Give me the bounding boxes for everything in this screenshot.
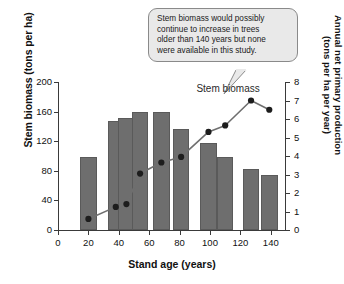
line-series bbox=[58, 82, 286, 231]
data-point-marker bbox=[123, 201, 129, 207]
axis-tick bbox=[180, 231, 181, 235]
axis-tick-label: 6 bbox=[294, 113, 334, 124]
axis-tick bbox=[58, 231, 59, 235]
axis-tick bbox=[286, 138, 290, 139]
axis-tick-label: 140 bbox=[251, 237, 291, 248]
axis-tick-label: 1 bbox=[294, 206, 334, 217]
axis-tick bbox=[271, 231, 272, 235]
data-point-marker bbox=[178, 154, 184, 160]
axis-tick-label: 200 bbox=[0, 76, 52, 87]
axis-tick bbox=[286, 175, 290, 176]
callout-box: Stem biomass would possibly continue to … bbox=[148, 8, 298, 62]
axis-tick-label: 7 bbox=[294, 95, 334, 106]
callout-text: Stem biomass would possibly continue to … bbox=[157, 14, 290, 56]
data-point-marker bbox=[205, 129, 211, 135]
axis-tick bbox=[240, 231, 241, 235]
axis-tick-label: 80 bbox=[0, 165, 52, 176]
axis-tick-label: 8 bbox=[294, 76, 334, 87]
axis-tick-label: 0 bbox=[294, 224, 334, 235]
axis-tick bbox=[54, 171, 58, 172]
axis-tick bbox=[210, 231, 211, 235]
chart-figure: Stem biomass would possibly continue to … bbox=[0, 0, 344, 284]
axis-tick bbox=[286, 193, 290, 194]
y-axis-right-title: Annual net primary production (tons per … bbox=[322, 0, 344, 175]
axis-tick bbox=[54, 200, 58, 201]
x-axis-title: Stand age (years) bbox=[58, 258, 286, 270]
axis-tick-label: 120 bbox=[0, 135, 52, 146]
plot-area: 04080120160200 012345678 020406080100120… bbox=[58, 82, 286, 230]
axis-tick-label: 3 bbox=[294, 169, 334, 180]
axis-tick-label: 40 bbox=[0, 194, 52, 205]
axis-tick bbox=[54, 141, 58, 142]
data-point-marker bbox=[248, 97, 254, 103]
axis-tick bbox=[286, 230, 290, 231]
data-point-marker bbox=[158, 159, 164, 165]
axis-tick bbox=[54, 82, 58, 83]
axis-tick-label: 160 bbox=[0, 106, 52, 117]
axis-tick bbox=[286, 101, 290, 102]
axis-tick-label: 4 bbox=[294, 150, 334, 161]
axis-tick bbox=[286, 82, 290, 83]
data-point-marker bbox=[266, 107, 272, 113]
axis-tick bbox=[149, 231, 150, 235]
data-point-marker bbox=[85, 216, 91, 222]
data-point-marker bbox=[137, 170, 143, 176]
axis-tick-label: 0 bbox=[0, 224, 52, 235]
axis-tick bbox=[54, 112, 58, 113]
data-point-marker bbox=[113, 204, 119, 210]
axis-tick bbox=[286, 119, 290, 120]
axis-tick bbox=[286, 156, 290, 157]
axis-tick bbox=[286, 212, 290, 213]
data-point-marker bbox=[222, 122, 228, 128]
axis-tick-label: 2 bbox=[294, 187, 334, 198]
axis-tick bbox=[88, 231, 89, 235]
axis-tick-label: 5 bbox=[294, 132, 334, 143]
axis-tick bbox=[119, 231, 120, 235]
series-label-stem-biomass: Stem biomass bbox=[196, 83, 259, 94]
